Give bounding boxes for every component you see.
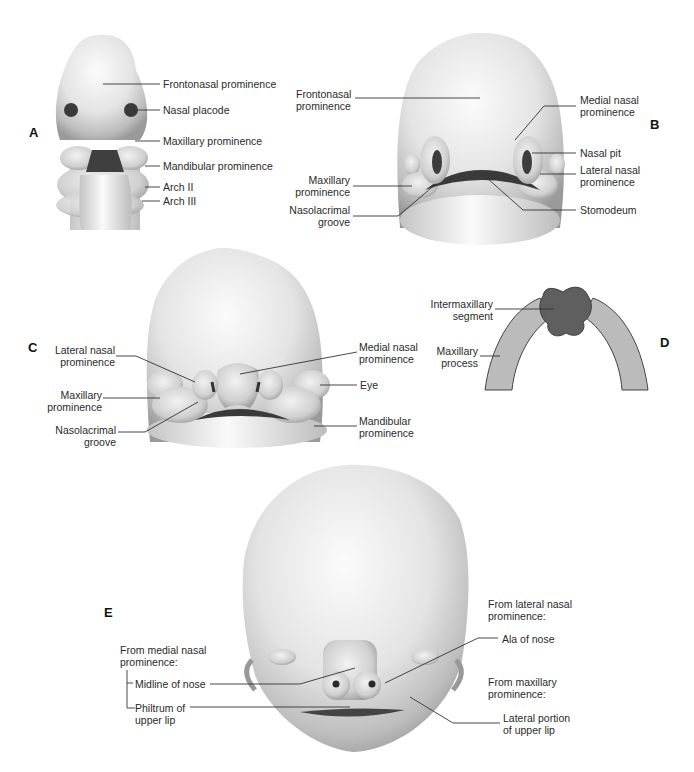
panel-letter-c: C: [28, 340, 37, 355]
label-b-nasolacrimal: Nasolacrimalgroove: [285, 204, 350, 228]
label-c-nasolacrimal: Nasolacrimalgroove: [48, 424, 116, 448]
label-c-medial-nasal: Medial nasalprominence: [359, 341, 418, 365]
panel-letter-b: B: [650, 117, 659, 132]
label-e-from-medial-nasal: From medial nasalprominence:: [120, 644, 206, 668]
label-c-maxillary: Maxillaryprominence: [40, 389, 102, 413]
label-e-from-maxillary: From maxillaryprominence:: [488, 676, 557, 700]
label-a-arch-iii: Arch III: [163, 195, 196, 207]
panel-letter-d: D: [660, 335, 669, 350]
label-d-maxillary-process: Maxillaryprocess: [420, 345, 478, 369]
label-d-intermaxillary: Intermaxillarysegment: [415, 298, 493, 322]
label-c-eye: Eye: [360, 379, 378, 391]
panel-letter-a: A: [29, 125, 38, 140]
label-e-from-lateral-nasal: From lateral nasalprominence:: [488, 598, 572, 622]
label-b-medial-nasal: Medial nasalprominence: [580, 94, 639, 118]
label-b-lateral-nasal: Lateral nasalprominence: [580, 164, 640, 188]
panel-a-illustration: [56, 35, 149, 230]
panel-d-illustration: [485, 287, 648, 390]
label-b-nasal-pit: Nasal pit: [580, 147, 621, 159]
label-e-lateral-portion-upper-lip: Lateral portionof upper lip: [503, 712, 570, 736]
label-c-mandibular: Mandibularprominence: [359, 415, 414, 439]
label-a-maxillary: Maxillary prominence: [163, 135, 262, 147]
label-b-maxillary: Maxillaryprominence: [290, 174, 350, 198]
label-e-philtrum: Philtrum ofupper lip: [135, 702, 185, 726]
label-e-ala-of-nose: Ala of nose: [502, 633, 555, 645]
panel-e-illustration: [243, 465, 469, 752]
label-c-lateral-nasal: Lateral nasalprominence: [45, 344, 115, 368]
label-a-nasal-placode: Nasal placode: [163, 104, 230, 116]
panel-b-illustration: [397, 33, 565, 245]
panel-c-illustration: [147, 248, 330, 448]
label-e-midline-of-nose: Midline of nose: [135, 678, 206, 690]
label-a-mandibular: Mandibular prominence: [163, 160, 273, 172]
label-b-frontonasal: Frontonasalprominence: [296, 88, 351, 112]
panel-letter-e: E: [104, 605, 113, 620]
label-b-stomodeum: Stomodeum: [580, 204, 637, 216]
label-a-frontonasal: Frontonasal prominence: [163, 78, 276, 90]
label-a-arch-ii: Arch II: [163, 181, 193, 193]
